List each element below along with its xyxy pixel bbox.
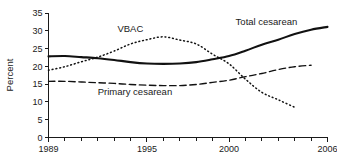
y-axis-title: Percent <box>4 58 15 91</box>
x-tick-label-1989: 1989 <box>38 144 58 154</box>
y-tick-label-15: 15 <box>32 79 42 89</box>
y-tick-label-5: 5 <box>37 115 42 125</box>
series-label-vbac: VBAC <box>117 23 143 34</box>
y-tick-label-30: 30 <box>32 26 42 36</box>
x-tick-label-2006: 2006 <box>317 144 337 154</box>
series-label-total-cesarean: Total cesarean <box>236 16 298 27</box>
y-axis-group: 05101520253035 <box>32 8 48 143</box>
y-tick-label-25: 25 <box>32 44 42 54</box>
x-tick-label-2000: 2000 <box>219 144 239 154</box>
chart-canvas: 05101520253035 1989199520002006 Percent … <box>0 0 337 161</box>
data-series-group <box>49 27 328 107</box>
cesarean-rates-chart: 05101520253035 1989199520002006 Percent … <box>0 0 337 161</box>
y-tick-label-20: 20 <box>32 62 42 72</box>
series-annotations-group: VBACTotal cesareanPrimary cesarean <box>98 16 298 97</box>
x-axis-group: 1989199520002006 <box>38 138 337 154</box>
y-tick-label-10: 10 <box>32 97 42 107</box>
series-total-cesarean <box>49 27 328 64</box>
y-tick-group: 05101520253035 <box>32 8 48 143</box>
x-tick-group: 1989199520002006 <box>38 138 337 154</box>
y-tick-label-35: 35 <box>32 8 42 18</box>
series-label-primary-cesarean: Primary cesarean <box>98 86 172 97</box>
series-primary-cesarean <box>49 65 312 85</box>
x-tick-label-1995: 1995 <box>137 144 157 154</box>
y-tick-label-0: 0 <box>37 133 42 143</box>
